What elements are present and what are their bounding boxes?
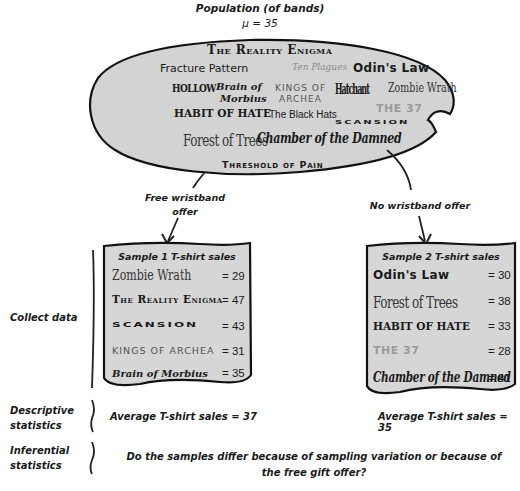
sample2-value: = 41	[488, 372, 511, 384]
inferential-brace	[91, 442, 95, 474]
free-wristband-line2: offer	[140, 206, 230, 217]
sample1-row: Brain of Morbius = 35	[112, 367, 250, 387]
sample1-average: Average T-shirt sales = 37	[110, 411, 257, 422]
descriptive-brace	[91, 400, 94, 432]
band-logo-scansion: SCANSION	[335, 119, 409, 125]
sample2-title: Sample 2 T-shirt sales	[367, 251, 515, 262]
sample1-value: = 29	[222, 270, 245, 282]
sample2-average: Average T-shirt sales = 35	[378, 411, 520, 433]
band-logo-hollow: HOLLOW	[172, 84, 216, 95]
band-logo-the-37: THE 37	[376, 103, 422, 114]
band-logo-hatchant: Hatchant	[335, 82, 369, 96]
sample2-row: Odin's Law = 30	[373, 267, 515, 287]
sample2-band: THE 37	[373, 345, 419, 356]
band-logo-odins-law: Odin's Law	[353, 62, 429, 74]
sample1-band: Zombie Wrath	[112, 268, 191, 283]
band-logo-threshold-of-pain: Threshold of Pain	[222, 160, 323, 170]
question-line1: Do the samples differ because of samplin…	[110, 449, 518, 465]
stage-descriptive-line1: Descriptive	[10, 403, 74, 418]
sample2-row: Forest of Trees = 38	[373, 293, 515, 315]
collect-brace	[92, 250, 94, 388]
stage-inferential-line2: statistics	[10, 458, 69, 473]
sample1-row: The Reality Enigma = 47	[112, 292, 250, 312]
band-logo-brain-of: Brain of	[216, 82, 262, 92]
sample1-band: KINGS OF ARCHEA	[112, 346, 214, 356]
sample2-row: HABIT OF HATE = 33	[373, 319, 515, 339]
population-title: Population (of bands)	[0, 2, 520, 14]
sample2-value: = 28	[488, 345, 511, 357]
sample2-row: THE 37 = 28	[373, 343, 515, 363]
left-arrowhead	[162, 234, 174, 243]
question-line2: the free gift offer?	[110, 465, 518, 481]
no-wristband-label: No wristband offer	[360, 200, 480, 211]
band-logo-ten-plagues: Ten Plagues	[292, 63, 347, 72]
free-wristband-line1: Free wristband	[140, 192, 230, 203]
band-logo-kings-of: KINGS OF	[275, 84, 326, 93]
band-logo-habit-of-hate: HABIT OF HATE	[174, 108, 271, 119]
sample1-band: The Reality Enigma	[112, 294, 223, 305]
sample1-value: = 43	[222, 320, 245, 332]
band-logo-chamber-of-the-damned: Chamber of the Damned	[257, 131, 401, 146]
band-logo-forest-of-trees: Forest of Trees	[183, 131, 268, 148]
left-connector	[193, 172, 205, 188]
sample2-row: Chamber of the Damned = 41	[373, 369, 515, 391]
sample2-band: Odin's Law	[373, 269, 449, 281]
sample2-band: HABIT OF HATE	[373, 321, 470, 332]
population-mean: μ = 35	[0, 17, 520, 29]
sample2-value: = 38	[488, 295, 511, 307]
sample1-value: = 31	[222, 345, 245, 357]
band-logo-fracture-pattern: Fracture Pattern	[160, 63, 248, 74]
sample2-value: = 33	[488, 320, 511, 332]
sample2-value: = 30	[488, 269, 511, 281]
stage-descriptive-line2: statistics	[10, 418, 74, 433]
sample1-band: Brain of Morbius	[112, 369, 208, 379]
band-logo-reality-enigma: The Reality Enigma	[207, 44, 332, 56]
sample1-row: Zombie Wrath = 29	[112, 268, 250, 288]
sample1-value: = 35	[222, 367, 245, 379]
band-logo-morbius: Morbius	[220, 94, 267, 104]
band-logo-black-hats: The Black Hats	[269, 110, 337, 120]
sample1-row: SCANSION = 43	[112, 318, 250, 338]
stage-collect-data: Collect data	[10, 312, 77, 323]
sample1-band: SCANSION	[112, 322, 198, 329]
sample1-title: Sample 1 T-shirt sales	[104, 251, 250, 262]
sample1-value: = 47	[222, 294, 245, 306]
sample2-band: Forest of Trees	[373, 293, 458, 310]
inferential-question: Do the samples differ because of samplin…	[110, 449, 518, 481]
band-logo-archea: ARCHEA	[279, 95, 322, 104]
stage-inferential-line1: Inferential	[10, 443, 69, 458]
stage-descriptive-statistics: Descriptive statistics	[10, 403, 74, 433]
free-wristband-label: Free wristband offer	[140, 192, 230, 217]
sample1-row: KINGS OF ARCHEA = 31	[112, 343, 250, 363]
band-logo-zombie-wrath: Zombie Wrath	[388, 81, 457, 94]
sample1-box	[104, 243, 251, 385]
stage-inferential-statistics: Inferential statistics	[10, 443, 69, 473]
